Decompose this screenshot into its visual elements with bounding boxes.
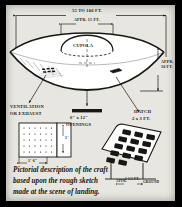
label-openings-size: 6" x 12" xyxy=(70,116,88,121)
label-overall-width: 55 TO 100 FT. xyxy=(72,9,102,14)
scan-frame: 55 TO 100 FT. APPR. 15 FT. CUPOLA APPR. … xyxy=(0,0,182,207)
label-openings: OPENINGS xyxy=(66,123,91,128)
label-hatch: HATCH xyxy=(134,110,151,115)
document-page: 55 TO 100 FT. APPR. 15 FT. CUPOLA APPR. … xyxy=(6,5,175,201)
caption-line-2: based upon the rough sketch xyxy=(13,176,118,187)
figure-caption: Pictorial description of the craft based… xyxy=(13,165,118,197)
label-overall-height-2: 10 FT. xyxy=(161,65,173,69)
vent-detail xyxy=(19,123,71,164)
label-hatch-foot-center: 2 1/2 FT. xyxy=(125,178,139,182)
label-cupola-width: APPR. 15 FT. xyxy=(74,18,100,22)
label-hatch-foot-right: GROUND xyxy=(143,181,159,185)
label-vent-height: 1' xyxy=(65,136,69,140)
label-ventilation-1: VENTILATION xyxy=(10,105,44,110)
label-ventilation-2: OR EXHAUST xyxy=(10,112,42,117)
caption-line-3: made at the scene of landing. xyxy=(13,187,118,198)
openings-sample xyxy=(72,109,102,112)
label-hatch-size: 2 x 3 FT. xyxy=(132,117,150,122)
label-cupola: CUPOLA xyxy=(73,44,93,49)
caption-line-1: Pictorial description of the craft xyxy=(13,165,118,176)
label-vent-width: 1' 6" xyxy=(28,159,37,163)
